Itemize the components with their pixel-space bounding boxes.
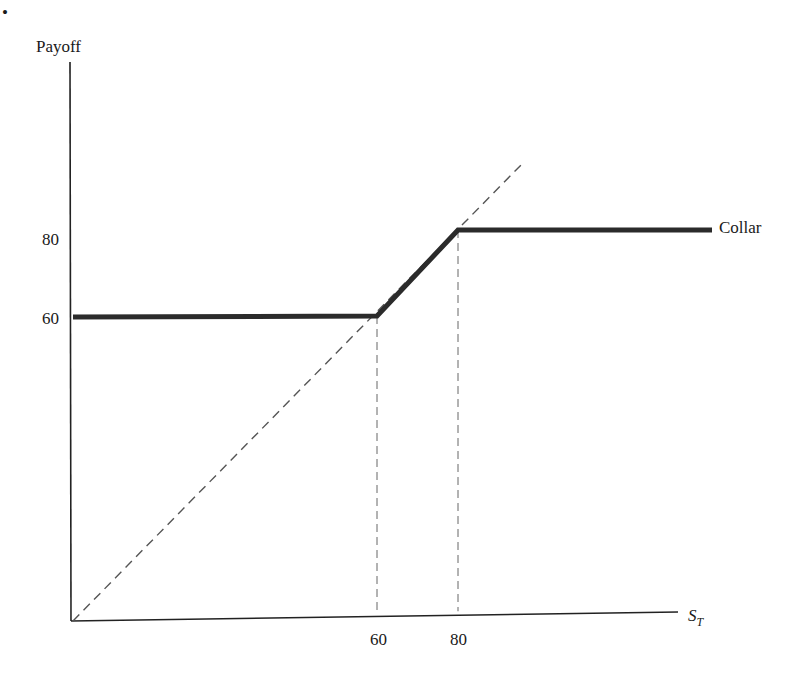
y-tick-60: 60: [42, 309, 59, 328]
series-layer: [73, 165, 712, 621]
payoff-chart: • Payoff ST 80 60 60 80 Collar: [0, 0, 811, 673]
x-axis: [71, 612, 678, 621]
y-axis-label: Payoff: [36, 37, 81, 56]
x-axis-label: ST: [688, 606, 705, 629]
collar-series-label: Collar: [719, 218, 762, 237]
y-tick-80: 80: [42, 230, 59, 249]
x-tick-60: 60: [370, 630, 387, 649]
y-axis: [70, 62, 71, 621]
x-tick-80: 80: [450, 630, 467, 649]
collar-payoff-line: [73, 230, 712, 317]
bullet-mark: •: [2, 3, 8, 22]
